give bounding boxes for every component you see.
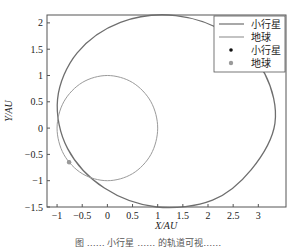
x-tick-label: 0.5 (126, 210, 139, 221)
legend-label: 地球 (251, 57, 271, 69)
x-tick-label: 0 (105, 210, 110, 221)
x-tick-label: 2 (206, 210, 211, 221)
y-tick-label: 1 (38, 70, 43, 81)
legend-label: 小行星 (251, 44, 281, 56)
legend-label: 地球 (251, 31, 271, 43)
legend-label: 小行星 (251, 18, 281, 30)
y-tick-label: 1.5 (31, 44, 44, 55)
x-axis-label: X/AU (154, 220, 178, 231)
legend: 小行星地球小行星地球 (214, 16, 285, 72)
y-axis-label: Y/AU (3, 99, 14, 121)
legend-dot-swatch (229, 61, 233, 65)
y-tick-label: 0 (38, 123, 43, 134)
y-tick-label: −0.5 (25, 149, 43, 160)
position-marker-earth (67, 160, 71, 164)
figure-caption: 图 …… 小行星 …… 的轨道可视…… (0, 236, 296, 249)
y-tick-label: 0.5 (31, 96, 44, 107)
x-tick-label: 3 (256, 210, 261, 221)
y-axis: −1.5−1−0.500.511.52 (25, 17, 50, 212)
x-tick-label: 2.5 (227, 210, 240, 221)
legend-dot-swatch (229, 48, 233, 52)
orbit-line-earth (57, 75, 158, 180)
x-tick-label: −1 (52, 210, 63, 221)
x-tick-label: 1.5 (177, 210, 190, 221)
y-tick-label: 2 (38, 17, 43, 28)
x-tick-label: −0.5 (73, 210, 91, 221)
y-tick-label: −1 (32, 175, 43, 186)
orbit-chart: −1−0.500.511.522.53 −1.5−1−0.500.511.52 … (0, 0, 296, 232)
y-tick-label: −1.5 (25, 202, 43, 213)
